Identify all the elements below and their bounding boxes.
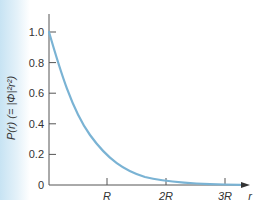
x-axis-label: r — [248, 190, 253, 202]
y-axis-label: P(r) (= |Φ|²r²) — [5, 76, 17, 140]
x-tick-label: 3R — [218, 190, 232, 202]
y-tick-label: 0.4 — [29, 118, 44, 130]
x-tick-label: R — [103, 190, 111, 202]
y-tick-label: 0.6 — [29, 87, 44, 99]
x-tick-label: 2R — [158, 190, 173, 202]
y-tick-label: 0.2 — [29, 148, 44, 160]
x-axis-arrow-icon — [241, 182, 250, 188]
y-tick-label: 1.0 — [29, 26, 44, 38]
probability-chart: 0 0.2 0.4 0.6 0.8 1.0 R 2R 3R r P(r) (= … — [0, 0, 260, 220]
probability-curve — [49, 32, 240, 185]
y-tick-label: 0.8 — [29, 57, 44, 69]
y-tick-label: 0 — [38, 179, 44, 191]
